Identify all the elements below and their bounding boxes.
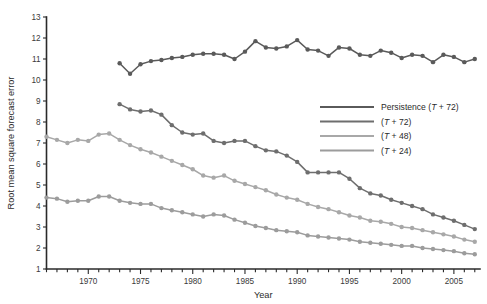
data-point (399, 201, 403, 205)
data-point (420, 54, 424, 58)
data-point (389, 198, 393, 202)
data-point (410, 244, 414, 248)
data-point (128, 107, 132, 111)
data-point (211, 139, 215, 143)
data-point (358, 240, 362, 244)
data-point (441, 53, 445, 57)
data-point (326, 235, 330, 239)
data-point (117, 199, 121, 203)
data-point (222, 141, 226, 145)
data-point (149, 150, 153, 154)
data-point (358, 186, 362, 190)
data-point (55, 138, 59, 142)
data-point (191, 132, 195, 136)
data-point (274, 149, 278, 153)
data-point (264, 148, 268, 152)
data-point (326, 54, 330, 58)
data-point (138, 202, 142, 206)
data-point (452, 219, 456, 223)
data-point (128, 72, 132, 76)
data-point (243, 49, 247, 53)
data-point (337, 210, 341, 214)
legend-label-1: (T + 72) (381, 117, 411, 127)
data-point (441, 248, 445, 252)
data-point (347, 213, 351, 217)
data-point (55, 196, 59, 200)
data-point (452, 249, 456, 253)
data-point (410, 53, 414, 57)
y-tick-label: 6 (36, 160, 41, 169)
data-point (274, 46, 278, 50)
data-point (264, 188, 268, 192)
data-point (441, 232, 445, 236)
data-point (285, 44, 289, 48)
data-point (232, 179, 236, 183)
data-point (138, 109, 142, 113)
data-point (347, 46, 351, 50)
data-point (253, 185, 257, 189)
data-point (170, 208, 174, 212)
data-point (305, 170, 309, 174)
data-point (138, 62, 142, 66)
data-point (441, 215, 445, 219)
y-axis-title: Root mean square forecast error (6, 77, 16, 210)
data-point (253, 224, 257, 228)
y-tick-label: 12 (31, 34, 41, 43)
data-point (337, 236, 341, 240)
data-point (170, 123, 174, 127)
y-tick-label: 1 (36, 265, 41, 274)
data-point (159, 112, 163, 116)
data-point (274, 192, 278, 196)
data-point (243, 139, 247, 143)
data-point (117, 102, 121, 106)
series-3 (44, 194, 477, 256)
x-axis-title: Year (254, 290, 273, 300)
data-point (295, 230, 299, 234)
data-point (138, 147, 142, 151)
data-point (368, 191, 372, 195)
y-tick-label: 4 (36, 202, 41, 211)
x-tick-label: 2005 (445, 277, 464, 286)
data-point (295, 38, 299, 42)
data-point (191, 53, 195, 57)
data-point (222, 173, 226, 177)
data-point (285, 153, 289, 157)
forecast-error-chart: 1234567891011121319701975198019851990199… (0, 0, 487, 304)
legend-label-3: (T + 24) (381, 146, 411, 156)
y-tick-label: 13 (31, 13, 41, 22)
data-point (431, 230, 435, 234)
data-point (191, 167, 195, 171)
data-point (201, 131, 205, 135)
data-point (347, 177, 351, 181)
data-point (473, 240, 477, 244)
data-point (107, 131, 111, 135)
y-tick-label: 10 (31, 76, 41, 85)
data-point (316, 48, 320, 52)
data-point (97, 194, 101, 198)
data-point (65, 200, 69, 204)
data-point (274, 228, 278, 232)
data-point (222, 213, 226, 217)
data-point (211, 52, 215, 56)
data-point (379, 48, 383, 52)
series-0 (117, 38, 477, 76)
data-point (180, 163, 184, 167)
data-point (128, 201, 132, 205)
x-tick-label: 1980 (184, 277, 203, 286)
data-point (473, 57, 477, 61)
data-point (420, 207, 424, 211)
data-point (253, 39, 257, 43)
data-point (86, 199, 90, 203)
data-point (399, 56, 403, 60)
legend-label-0: Persistence (T + 72) (381, 102, 459, 112)
data-point (191, 212, 195, 216)
data-point (326, 207, 330, 211)
x-tick-label: 1995 (340, 277, 359, 286)
data-point (305, 47, 309, 51)
data-point (305, 202, 309, 206)
series-layer (44, 38, 477, 257)
data-point (285, 229, 289, 233)
data-point (462, 223, 466, 227)
data-point (149, 202, 153, 206)
data-point (462, 251, 466, 255)
